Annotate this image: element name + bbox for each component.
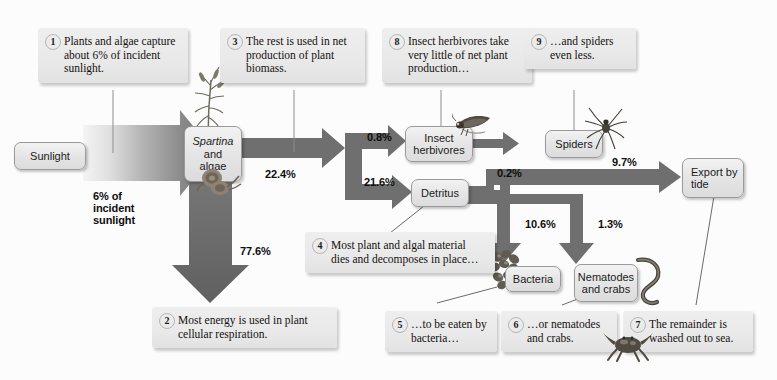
node-detritus-label: Detritus (421, 187, 459, 200)
callout-2-text: Most energy is used in plant cellular re… (178, 314, 329, 341)
callout-3[interactable]: 3 The rest is used in net production of … (220, 28, 365, 83)
flow-label-to-bacteria: 10.6% (525, 218, 556, 230)
callout-9-number: 9 (531, 34, 547, 50)
callout-2[interactable]: 2 Most energy is used in plant cellular … (152, 307, 337, 348)
callout-1-number: 1 (45, 34, 61, 50)
node-spartina-label-italic: Spartina (193, 135, 234, 148)
flow-label-to-nematodes: 1.3% (598, 218, 623, 230)
node-spiders[interactable]: Spiders (545, 130, 603, 158)
node-spartina-and-algae[interactable]: Spartina and algae (184, 126, 242, 182)
callout-9[interactable]: 9 …and spiders even less. (524, 28, 636, 69)
flow-label-to-insects: 0.8% (367, 131, 392, 143)
leader-line-callout-4 (390, 206, 424, 233)
flow-label-respiration: 77.6% (240, 245, 271, 257)
leader-line-callout-7 (696, 196, 714, 305)
node-sunlight-label: Sunlight (30, 150, 70, 163)
callout-2-number: 2 (159, 313, 175, 329)
callout-4[interactable]: 4 Most plant and algal material dies and… (305, 232, 495, 273)
node-nematodes-and-crabs-label: Nematodes and crabs (575, 271, 637, 296)
flow-label-net-production: 22.4% (265, 168, 296, 180)
callout-5[interactable]: 5 …to be eaten by bacteria… (385, 311, 497, 352)
callout-5-text: …to be eaten by bacteria… (411, 318, 489, 345)
callout-3-text: The rest is used in net production of pl… (246, 35, 357, 76)
callout-7-number: 7 (630, 317, 646, 333)
callout-8-number: 8 (389, 34, 405, 50)
flow-label-to-export: 9.7% (612, 156, 637, 168)
node-bacteria-label: Bacteria (513, 273, 553, 286)
callout-8-text: Insect herbivores take very little of ne… (408, 35, 524, 76)
node-nematodes-and-crabs[interactable]: Nematodes and crabs (574, 264, 638, 302)
node-sunlight[interactable]: Sunlight (14, 142, 86, 170)
node-insect-herbivores-label: Insect herbivores (406, 132, 472, 157)
node-insect-herbivores[interactable]: Insect herbivores (405, 126, 473, 162)
arrow-split-trunk (345, 133, 362, 200)
node-spiders-label: Spiders (555, 138, 592, 151)
callout-6[interactable]: 6 …or nematodes and crabs. (501, 311, 617, 352)
callout-6-text: …or nematodes and crabs. (527, 318, 609, 345)
callout-3-number: 3 (227, 34, 243, 50)
callout-8[interactable]: 8 Insect herbivores take very little of … (382, 28, 532, 83)
callout-4-text: Most plant and algal material dies and d… (331, 239, 487, 266)
node-bacteria[interactable]: Bacteria (505, 266, 561, 292)
arrow-to-spiders (473, 132, 519, 155)
callout-7[interactable]: 7 The remainder is washed out to sea. (623, 311, 753, 352)
callout-5-number: 5 (392, 317, 408, 333)
node-export-by-tide-label: Export by tide (691, 166, 743, 191)
flow-label-to-spiders: 0.2% (497, 167, 522, 179)
node-export-by-tide[interactable]: Export by tide (682, 158, 744, 198)
flow-label-to-detritus: 21.6% (364, 176, 395, 188)
callout-9-text: …and spiders even less. (550, 35, 628, 62)
callout-1[interactable]: 1 Plants and algae capture about 6% of i… (38, 28, 188, 83)
energy-flow-diagram: Sunlight Spartina and algae Insect herbi… (0, 0, 777, 380)
node-spartina-label-rest: and algae (200, 148, 227, 173)
flow-label-sunlight-to-plants: 6% of incident sunlight (93, 190, 135, 226)
leader-line-callout-5 (437, 287, 497, 303)
callout-6-number: 6 (508, 317, 524, 333)
callout-7-text: The remainder is washed out to sea. (649, 318, 745, 345)
callout-1-text: Plants and algae capture about 6% of inc… (64, 35, 180, 76)
callout-4-number: 4 (312, 238, 328, 254)
node-detritus[interactable]: Detritus (411, 179, 469, 207)
